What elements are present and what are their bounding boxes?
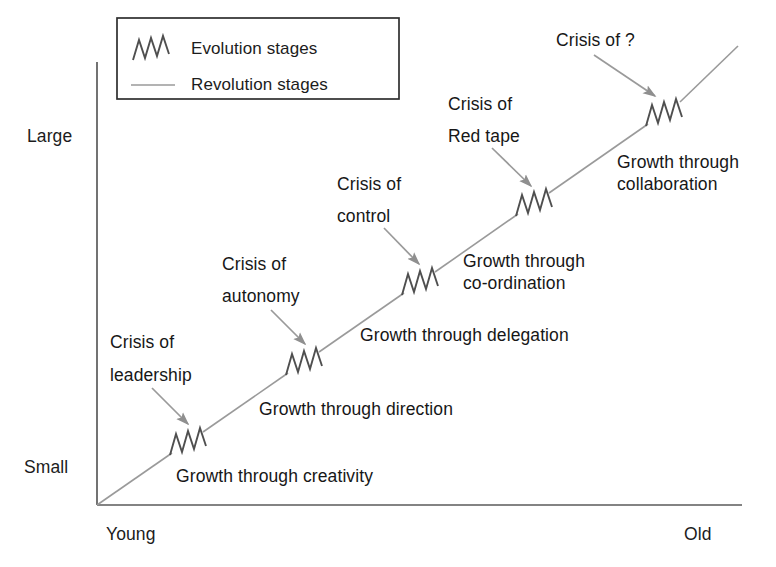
growth-label-coordination-line2: co-ordination — [463, 273, 565, 294]
crisis-label-autonomy-line2: autonomy — [222, 286, 300, 307]
growth-label-coordination-line1: Growth through — [463, 251, 585, 272]
axis-label-x-old: Old — [684, 524, 712, 545]
growth-diagonal-line — [97, 46, 738, 505]
legend-label-evolution-stages: Evolution stages — [191, 39, 317, 60]
crisis-label-control-line2: control — [337, 206, 390, 227]
legend-label-revolution-stages: Revolution stages — [191, 75, 328, 96]
arrow-crisis-redtape — [492, 148, 531, 186]
crisis-label-unknown: Crisis of ? — [556, 30, 635, 51]
crisis-label-leadership-line1: Crisis of — [110, 332, 174, 353]
axis-label-y-small: Small — [24, 457, 68, 478]
arrow-crisis-leadership — [152, 388, 188, 424]
zigzag-crisis-control — [402, 268, 438, 295]
zigzag-crisis-unknown — [646, 99, 682, 126]
zigzag-crisis-autonomy — [286, 348, 322, 375]
axis-label-y-large: Large — [27, 126, 72, 147]
zigzag-crisis-leadership — [170, 428, 206, 455]
growth-label-collaboration-line1: Growth through — [617, 152, 739, 173]
growth-label-collaboration-line2: collaboration — [617, 174, 718, 195]
arrow-crisis-autonomy — [271, 310, 305, 344]
arrow-crisis-unknown — [594, 55, 655, 96]
growth-label-delegation: Growth through delegation — [360, 325, 569, 346]
crisis-label-redtape-line2: Red tape — [448, 126, 520, 147]
crisis-label-leadership-line2: leadership — [110, 365, 192, 386]
axis-lines — [97, 62, 742, 505]
crisis-arrows — [152, 55, 655, 424]
growth-label-direction: Growth through direction — [259, 399, 453, 420]
diagram-canvas — [0, 0, 776, 567]
greiner-growth-model-diagram: Evolution stages Revolution stages Large… — [0, 0, 776, 567]
axis-label-x-young: Young — [106, 524, 156, 545]
growth-label-creativity: Growth through creativity — [176, 466, 373, 487]
crisis-label-control-line1: Crisis of — [337, 174, 401, 195]
crisis-label-autonomy-line1: Crisis of — [222, 254, 286, 275]
zigzag-crisis-redtape — [516, 189, 552, 216]
arrow-crisis-control — [384, 228, 419, 264]
crisis-label-redtape-line1: Crisis of — [448, 94, 512, 115]
